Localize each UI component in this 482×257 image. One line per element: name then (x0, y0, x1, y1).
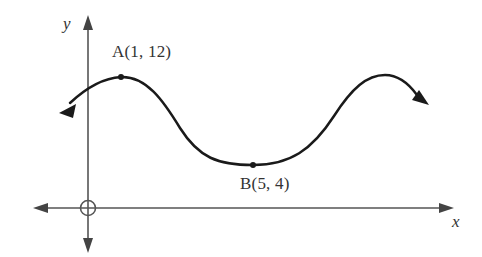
y-axis-top-arrowhead (83, 15, 93, 30)
curve (59, 75, 429, 165)
graph-canvas (0, 0, 482, 257)
point-b-dot (250, 162, 256, 168)
y-axis-label: y (63, 14, 71, 34)
graph-figure: A(1, 12) B(5, 4) y x (0, 0, 482, 257)
y-axis-bottom-arrowhead (83, 238, 93, 253)
curve-path (70, 75, 417, 165)
x-axis-left-arrowhead (33, 203, 48, 213)
x-axis-label: x (452, 212, 460, 232)
point-b-label: B(5, 4) (240, 174, 290, 194)
curve-left-arrowhead (59, 104, 76, 118)
y-axis (83, 15, 93, 253)
point-a-dot (118, 74, 124, 80)
point-a-label: A(1, 12) (112, 42, 171, 62)
